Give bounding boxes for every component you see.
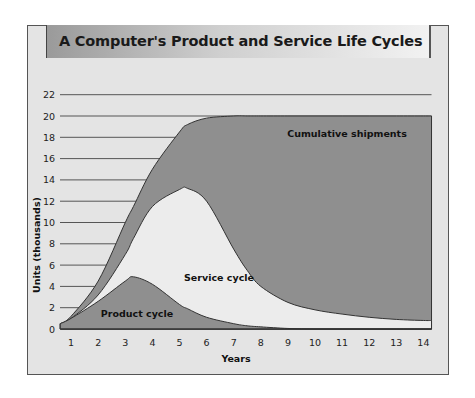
cumulative-shipments-label: Cumulative shipments	[287, 128, 407, 139]
y-tick-label: 0	[49, 324, 55, 335]
x-axis-ticks: 1234567891011121314	[68, 337, 429, 348]
x-tick-label: 14	[417, 337, 429, 348]
y-tick-label: 8	[49, 238, 55, 249]
product-cycle-label: Product cycle	[101, 308, 173, 319]
x-tick-label: 9	[285, 337, 291, 348]
service-cycle-label: Service cycle	[184, 272, 254, 283]
x-tick-label: 13	[390, 337, 402, 348]
y-tick-label: 10	[43, 217, 55, 228]
x-tick-label: 4	[149, 337, 155, 348]
y-tick-label: 16	[43, 153, 55, 164]
y-tick-label: 20	[43, 111, 55, 122]
chart-plot: 0246810121416182022 1234567891011121314 …	[0, 0, 475, 398]
y-tick-label: 2	[49, 302, 55, 313]
y-tick-label: 22	[43, 89, 55, 100]
x-tick-label: 1	[68, 337, 74, 348]
y-tick-label: 6	[49, 260, 55, 271]
x-tick-label: 10	[309, 337, 321, 348]
x-axis-label: Years	[220, 353, 251, 364]
y-tick-label: 12	[43, 196, 55, 207]
x-tick-label: 5	[176, 337, 182, 348]
x-tick-label: 7	[231, 337, 237, 348]
x-tick-label: 2	[95, 337, 101, 348]
x-tick-label: 6	[204, 337, 210, 348]
y-tick-label: 18	[43, 132, 55, 143]
y-tick-label: 4	[49, 281, 55, 292]
x-tick-label: 8	[258, 337, 264, 348]
x-tick-label: 12	[363, 337, 375, 348]
x-tick-label: 11	[336, 337, 348, 348]
x-tick-label: 3	[122, 337, 128, 348]
y-axis-label: Units (thousands)	[31, 197, 42, 293]
y-tick-label: 14	[43, 174, 55, 185]
y-axis-ticks: 0246810121416182022	[43, 89, 55, 334]
